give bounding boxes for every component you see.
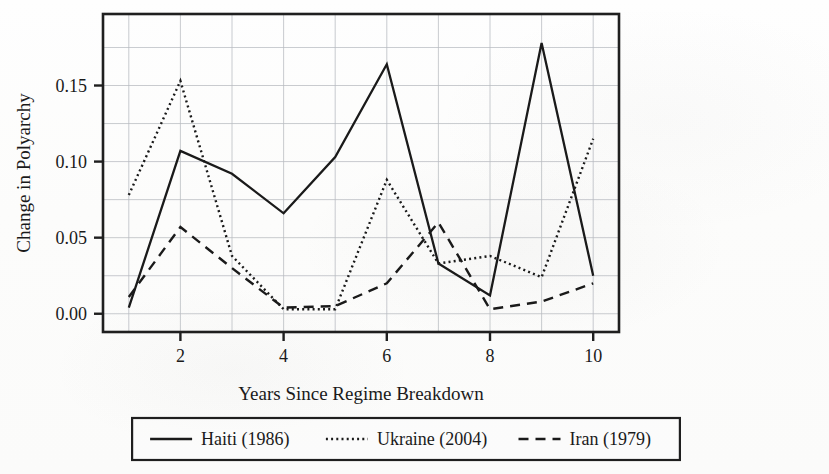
line-chart: 0.000.050.100.15246810Years Since Regime… (0, 0, 829, 474)
x-tick-label: 4 (279, 346, 288, 366)
x-axis-ticks: 246810 (176, 332, 602, 366)
y-tick-label: 0.00 (56, 304, 88, 324)
y-tick-label: 0.15 (56, 76, 88, 96)
x-tick-label: 2 (176, 346, 185, 366)
x-tick-label: 10 (584, 346, 602, 366)
y-tick-label: 0.05 (56, 228, 88, 248)
figure-canvas: 0.000.050.100.15246810Years Since Regime… (0, 0, 829, 474)
legend-label: Ukraine (2004) (377, 429, 487, 450)
x-axis-title: Years Since Regime Breakdown (238, 383, 484, 404)
gridlines-vertical (129, 14, 593, 332)
x-tick-label: 8 (486, 346, 495, 366)
series-line-iran-1979 (129, 222, 593, 309)
series-line-haiti-1986 (129, 43, 593, 308)
y-axis-ticks: 0.000.050.100.15 (56, 76, 104, 324)
y-tick-label: 0.10 (56, 152, 88, 172)
y-axis-title: Change in Polyarchy (13, 93, 34, 253)
x-tick-label: 6 (382, 346, 391, 366)
legend-label: Haiti (1986) (201, 429, 289, 450)
legend-label: Iran (1979) (570, 429, 651, 450)
series-line-ukraine-2004 (129, 81, 593, 309)
legend: Haiti (1986)Ukraine (2004)Iran (1979) (132, 418, 680, 460)
